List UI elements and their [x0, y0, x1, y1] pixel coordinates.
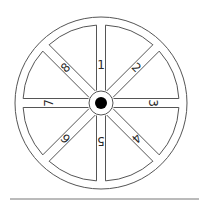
spoke-label-6: 6 — [58, 131, 73, 146]
spoke-label-7: 7 — [42, 99, 56, 107]
spoke-label-8: 8 — [58, 60, 73, 75]
wheel-diagram: 12345678 — [0, 0, 199, 206]
spoke-label-5: 5 — [97, 134, 105, 148]
spoke-label-1: 1 — [97, 58, 105, 72]
axle-dot — [95, 97, 107, 109]
spoke-label-4: 4 — [129, 131, 144, 146]
spoke-label-2: 2 — [129, 60, 144, 75]
spoke-label-3: 3 — [146, 99, 160, 107]
